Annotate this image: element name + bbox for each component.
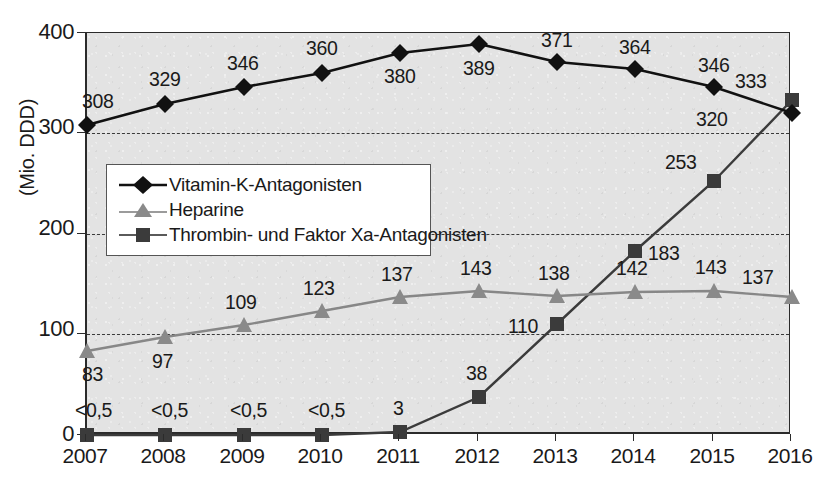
data-label-thr-2009: <0,5 — [230, 399, 267, 422]
data-label-thr-2010: <0,5 — [308, 399, 345, 422]
y-tick-label-300: 300 — [12, 114, 74, 140]
data-label-thr-2012: 38 — [466, 362, 487, 385]
x-tick-mark-2013 — [555, 434, 556, 441]
y-tick-label-400: 400 — [12, 19, 74, 45]
data-label-hep-2012: 143 — [460, 257, 491, 280]
series-line-vka — [87, 44, 792, 125]
legend-label-heparine: Heparine — [169, 199, 244, 221]
data-label-vka-2009: 346 — [227, 52, 258, 75]
data-label-hep-2011: 137 — [381, 263, 412, 286]
x-tick-mark-2010 — [320, 434, 321, 441]
x-tick-label-2008: 2008 — [121, 444, 205, 468]
x-tick-mark-2009 — [242, 434, 243, 441]
data-label-hep-2016: 137 — [742, 266, 773, 289]
data-label-thr-2014: 183 — [648, 242, 679, 265]
x-tick-label-2011: 2011 — [356, 444, 440, 468]
legend-label-thrombin: Thrombin- und Faktor Xa-Antagonisten — [169, 224, 487, 246]
data-label-vka-2013: 371 — [541, 29, 572, 52]
data-label-hep-2007: 83 — [82, 363, 103, 386]
square-icon — [117, 225, 169, 245]
data-label-vka-2016: 320 — [696, 108, 727, 131]
x-tick-mark-2007 — [85, 434, 86, 441]
data-label-hep-2010: 123 — [303, 277, 334, 300]
x-tick-label-2016: 2016 — [748, 444, 830, 468]
x-tick-label-2010: 2010 — [278, 444, 362, 468]
data-label-vka-2008: 329 — [149, 68, 180, 91]
data-label-vka-2014: 364 — [619, 36, 650, 59]
x-tick-mark-2011 — [398, 434, 399, 441]
data-label-vka-2015: 346 — [698, 54, 729, 77]
data-label-vka-2007: 308 — [82, 90, 113, 113]
x-tick-mark-2012 — [477, 434, 478, 441]
data-label-thr-2015: 253 — [665, 151, 696, 174]
marker-group-thrombin — [80, 93, 799, 442]
x-tick-mark-2015 — [712, 434, 713, 441]
diamond-icon — [117, 175, 169, 195]
x-tick-label-2007: 2007 — [43, 444, 127, 468]
data-label-hep-2008: 97 — [152, 350, 173, 373]
y-tick-label-100: 100 — [12, 316, 74, 342]
marker-group-vka — [78, 35, 801, 134]
x-tick-mark-2008 — [163, 434, 164, 441]
legend-item-vitamin-k-antagonisten[interactable]: Vitamin-K-Antagonisten — [117, 172, 420, 197]
chart-figure: (Mio. DDD) 400 300 200 100 0 — [0, 0, 830, 480]
x-tick-mark-2016 — [790, 434, 791, 441]
data-label-hep-2009: 109 — [225, 291, 256, 314]
x-tick-label-2014: 2014 — [591, 444, 675, 468]
legend-item-heparine[interactable]: Heparine — [117, 197, 420, 222]
data-label-thr-2008: <0,5 — [151, 399, 188, 422]
x-tick-label-2015: 2015 — [670, 444, 754, 468]
data-label-vka-2011: 380 — [384, 65, 415, 88]
data-label-hep-2013: 138 — [538, 262, 569, 285]
data-label-thr-2016: 333 — [735, 70, 766, 93]
x-tick-mark-2014 — [633, 434, 634, 441]
triangle-icon — [117, 200, 169, 220]
data-label-hep-2015: 143 — [695, 256, 726, 279]
data-label-thr-2013: 110 — [508, 315, 538, 338]
y-tick-label-200: 200 — [12, 215, 74, 241]
data-label-vka-2012: 389 — [463, 57, 494, 80]
chart-legend: Vitamin-K-Antagonisten Heparine — [106, 164, 431, 256]
series-line-heparine — [87, 291, 792, 351]
plot-area: 308 329 346 360 380 389 371 364 346 320 … — [85, 32, 790, 434]
x-tick-label-2013: 2013 — [513, 444, 597, 468]
legend-label-vka: Vitamin-K-Antagonisten — [169, 174, 362, 196]
data-label-thr-2007: <0,5 — [75, 399, 112, 422]
x-tick-label-2012: 2012 — [435, 444, 519, 468]
legend-item-thrombin-faktor-xa[interactable]: Thrombin- und Faktor Xa-Antagonisten — [117, 222, 420, 247]
data-label-vka-2010: 360 — [306, 37, 337, 60]
data-label-hep-2014: 142 — [616, 257, 647, 280]
x-tick-label-2009: 2009 — [200, 444, 284, 468]
data-label-thr-2011: 3 — [393, 397, 403, 420]
